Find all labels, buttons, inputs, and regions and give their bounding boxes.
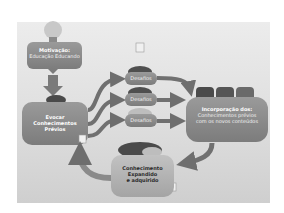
challenge-label-2: Desafios [125, 96, 157, 102]
motivation-label: Motivação: Educação Educando [27, 47, 82, 59]
document-icon [136, 43, 144, 52]
prior-knowledge-line3: Prévios [22, 126, 88, 132]
expanded-knowledge-label: Conhecimento Expandido e adquirido [111, 165, 174, 183]
challenge-label-3: Desafios [125, 117, 157, 123]
document-icon [79, 135, 86, 143]
challenge-label-1: Desafios [125, 75, 157, 81]
down-arrow-icon [43, 75, 63, 96]
prior-knowledge-label: Evocar Conhecimentos Prévios [22, 114, 88, 132]
incorporation-label: Incorporação dos: Conhecimentos prévios … [186, 106, 268, 124]
motivation-subtitle: Educação Educando [29, 53, 80, 59]
incorporation-line3: com os novos conteúdos [196, 118, 258, 124]
lightbulb-icon [44, 21, 62, 42]
expanded-line3: e adquirido [111, 177, 174, 183]
